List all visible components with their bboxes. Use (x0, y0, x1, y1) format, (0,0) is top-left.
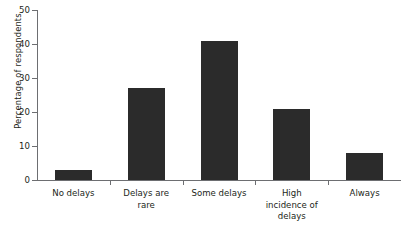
y-tick-mark (32, 44, 37, 45)
bar (273, 109, 310, 180)
x-tick-mark (110, 180, 111, 185)
bar (201, 41, 238, 180)
x-category-label-line: delays (255, 211, 328, 223)
x-category-label: No delays (37, 188, 110, 200)
y-tick-mark (32, 146, 37, 147)
bar (128, 88, 165, 180)
y-tick-label: 50 (2, 5, 30, 15)
bar-chart: Percentage of respondents 01020304050 No… (0, 0, 413, 229)
x-category-label: Some delays (183, 188, 256, 200)
x-category-label-line: Some delays (183, 188, 256, 200)
y-tick-mark (32, 10, 37, 11)
bar (55, 170, 92, 180)
y-tick-mark (32, 112, 37, 113)
x-category-label-line: High (255, 188, 328, 200)
x-tick-mark (183, 180, 184, 185)
y-tick-mark (32, 78, 37, 79)
y-tick-label: 10 (2, 141, 30, 151)
x-category-label-line: incidence of (255, 200, 328, 212)
x-category-label: Highincidence ofdelays (255, 188, 328, 223)
y-tick-label: 20 (2, 107, 30, 117)
x-category-label: Always (328, 188, 401, 200)
bar (346, 153, 383, 180)
y-tick-label: 30 (2, 73, 30, 83)
x-axis-line (37, 180, 401, 181)
y-tick-label: 0 (2, 175, 30, 185)
x-category-label-line: Delays are (110, 188, 183, 200)
y-axis-line (37, 10, 38, 181)
x-category-label-line: rare (110, 200, 183, 212)
y-tick-label: 40 (2, 39, 30, 49)
x-tick-mark (328, 180, 329, 185)
x-category-label: Delays arerare (110, 188, 183, 211)
y-tick-mark (32, 180, 37, 181)
x-category-label-line: No delays (37, 188, 110, 200)
x-tick-mark (255, 180, 256, 185)
x-category-label-line: Always (328, 188, 401, 200)
